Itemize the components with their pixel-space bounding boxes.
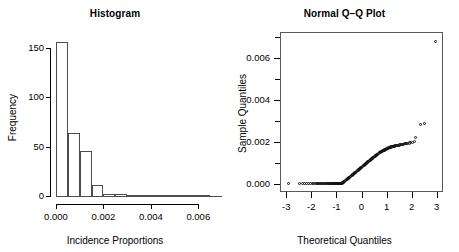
qq-y-tick xyxy=(274,142,280,143)
qq-y-tick xyxy=(274,100,280,101)
histogram-title: Histogram xyxy=(0,8,230,19)
qq-x-tick xyxy=(286,192,287,198)
histogram-x-tick-label: 0.004 xyxy=(127,211,175,222)
histogram-x-tick xyxy=(198,204,199,209)
histogram-y-tick xyxy=(46,48,51,49)
histogram-y-tick-label: 100 xyxy=(8,91,44,102)
qq-y-tick-label: 0.004 xyxy=(228,94,270,105)
histogram-panel: Histogram Frequency Incidence Proportion… xyxy=(0,0,230,252)
qq-y-axis-label: Sample Quantiles xyxy=(237,64,248,164)
qq-x-axis-label: Theoretical Quantiles xyxy=(230,235,459,246)
histogram-y-axis-label: Frequency xyxy=(7,68,18,168)
qq-y-minor-tick xyxy=(275,37,280,38)
qq-y-minor-tick xyxy=(275,121,280,122)
histogram-bar xyxy=(68,133,80,196)
qq-x-tick-label: 3 xyxy=(421,201,453,212)
qq-data-point xyxy=(414,136,417,139)
qq-plot-panel: Normal Q–Q Plot Sample Quantiles Theoret… xyxy=(230,0,459,252)
figure-two-panel: Histogram Frequency Incidence Proportion… xyxy=(0,0,459,252)
histogram-x-tick xyxy=(103,204,104,209)
qq-x-tick xyxy=(311,192,312,198)
histogram-x-tick-label: 0.006 xyxy=(174,211,222,222)
histogram-bar xyxy=(56,42,68,196)
histogram-bar xyxy=(92,185,104,196)
qq-x-tick xyxy=(336,192,337,198)
histogram-y-tick-label: 50 xyxy=(8,141,44,152)
histogram-y-tick-label: 150 xyxy=(8,42,44,53)
qq-y-minor-tick xyxy=(275,163,280,164)
histogram-y-tick xyxy=(46,97,51,98)
histogram-x-axis-label: Incidence Proportions xyxy=(0,235,230,246)
qq-y-tick-label: 0.002 xyxy=(228,136,270,147)
histogram-x-tick xyxy=(56,204,57,209)
histogram-y-tick xyxy=(46,147,51,148)
histogram-y-axis-line xyxy=(50,48,51,196)
histogram-x-tick-label: 0.000 xyxy=(32,211,80,222)
qq-x-tick xyxy=(437,192,438,198)
qq-y-tick-label: 0.000 xyxy=(228,178,270,189)
histogram-bar xyxy=(80,151,92,196)
histogram-y-tick xyxy=(46,196,51,197)
qq-y-minor-tick xyxy=(275,79,280,80)
qq-x-tick xyxy=(387,192,388,198)
qq-y-tick-label: 0.006 xyxy=(228,52,270,63)
histogram-y-tick-label: 0 xyxy=(8,190,44,201)
histogram-x-tick xyxy=(151,204,152,209)
histogram-baseline xyxy=(56,196,222,197)
qq-x-tick xyxy=(362,192,363,198)
qq-plot-title: Normal Q–Q Plot xyxy=(230,8,459,19)
qq-x-tick xyxy=(412,192,413,198)
qq-y-tick xyxy=(274,58,280,59)
qq-y-tick xyxy=(274,184,280,185)
histogram-x-tick-label: 0.002 xyxy=(79,211,127,222)
histogram-x-axis-line xyxy=(56,204,198,205)
